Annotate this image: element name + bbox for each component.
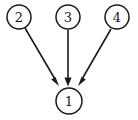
edge-4-to-1-line	[82, 29, 112, 80]
graph-diagram: 2 3 4 1	[0, 0, 138, 120]
edges-layer	[25, 28, 111, 87]
edge-3-to-1[interactable]	[64, 30, 71, 87]
node-1-label: 1	[65, 94, 73, 109]
edge-2-to-1-arrowhead	[51, 77, 59, 86]
node-2-label: 2	[15, 10, 23, 25]
node-1[interactable]: 1	[56, 88, 82, 114]
edge-4-to-1[interactable]	[78, 29, 111, 86]
edge-2-to-1[interactable]	[25, 28, 59, 86]
node-4-label: 4	[113, 10, 121, 25]
edge-3-to-1-arrowhead	[64, 78, 71, 87]
graph-canvas: 2 3 4 1	[0, 0, 138, 120]
edge-4-to-1-arrowhead	[78, 77, 86, 86]
node-4[interactable]: 4	[105, 5, 129, 29]
node-3[interactable]: 3	[56, 5, 80, 29]
edge-2-to-1-line	[25, 28, 56, 80]
node-3-label: 3	[64, 10, 72, 25]
node-2[interactable]: 2	[7, 5, 31, 29]
